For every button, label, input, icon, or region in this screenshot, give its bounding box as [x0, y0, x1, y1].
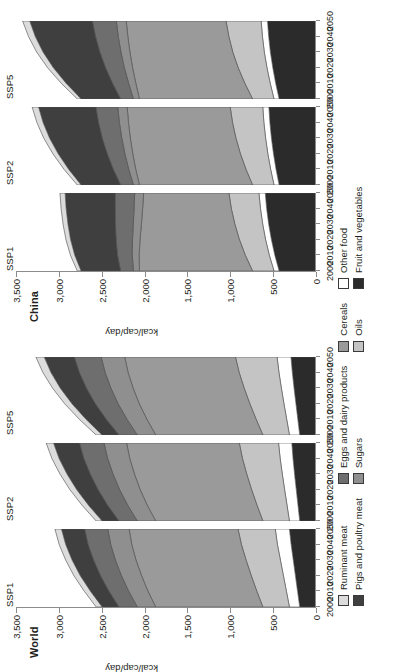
- panel-title-ssp2: SSP2: [4, 497, 15, 521]
- panel-title-ssp1: SSP1: [4, 583, 15, 607]
- x-axis: [315, 443, 316, 521]
- legend-item: Eggs and dairy products: [338, 366, 349, 484]
- chart-panel: SSP2200020102020203020402050: [16, 443, 316, 521]
- x-axis-tick: [316, 106, 320, 107]
- x-axis-tick: [316, 270, 320, 271]
- x-axis-tick: [316, 82, 320, 83]
- x-axis-tick: [316, 137, 320, 138]
- x-axis-tick: [316, 559, 320, 560]
- figure-rotation-wrapper: World 05001,0001,5002,0002,5003,0003,500…: [0, 0, 410, 672]
- y-axis-title-world: kcal/cap/day: [105, 663, 158, 672]
- legend-item-label: Cereals: [338, 303, 349, 336]
- legend-item: Ruminant meat: [338, 498, 349, 606]
- x-axis-tick: [316, 528, 320, 529]
- legend-swatch-icon: [353, 473, 364, 484]
- chart-panel: SSP2200020102020203020402050: [16, 107, 316, 185]
- x-axis: [315, 357, 316, 435]
- x-axis-tick: [316, 458, 320, 459]
- y-axis-tick: [187, 272, 188, 277]
- x-axis-tick: [316, 387, 320, 388]
- y-axis-tick: [273, 608, 274, 613]
- legend-swatch-icon: [338, 595, 349, 606]
- x-axis-tick: [316, 239, 320, 240]
- x-axis-tick-label: 2050: [325, 347, 335, 367]
- legend-column: Other foodFruit and vegetables: [338, 187, 364, 289]
- x-axis-tick: [316, 208, 320, 209]
- x-axis-tick: [316, 575, 320, 576]
- y-axis-tick-label: 3,000: [53, 615, 64, 639]
- x-axis-tick: [316, 489, 320, 490]
- y-axis-tick: [187, 608, 188, 613]
- y-axis-tick-label: 500: [268, 279, 279, 295]
- legend-item-label: Oils: [353, 319, 364, 335]
- figure: World 05001,0001,5002,0002,5003,0003,500…: [0, 0, 410, 672]
- x-axis-tick: [316, 356, 320, 357]
- legend-item-label: Ruminant meat: [338, 526, 349, 590]
- stacked-area-plot: [16, 357, 316, 435]
- y-axis-tick-label: 0: [311, 279, 322, 284]
- legend-item: Fruit and vegetables: [353, 187, 364, 289]
- legend-swatch-icon: [338, 278, 349, 289]
- y-axis-tick-label: 500: [268, 615, 279, 631]
- y-axis-tick-label: 2,000: [139, 615, 150, 639]
- stacked-area-plot: [16, 21, 316, 99]
- y-axis-tick-label: 1,500: [182, 279, 193, 303]
- legend-item: Oils: [353, 303, 364, 352]
- legend-item: Sugars: [353, 366, 364, 484]
- y-axis-tick: [145, 272, 146, 277]
- legend-swatch-icon: [338, 341, 349, 352]
- y-axis-tick: [16, 272, 17, 277]
- y-axis-tick-label: 2,500: [96, 615, 107, 639]
- group-title-world: World: [28, 627, 40, 658]
- x-axis-tick: [316, 442, 320, 443]
- y-axis-tick: [316, 608, 317, 613]
- legend-column: Ruminant meatPigs and poultry meat: [338, 498, 364, 606]
- panels-china: SSP1200020102020203020402050SSP220002010…: [16, 13, 316, 271]
- legend-item-label: Fruit and vegetables: [353, 187, 364, 273]
- y-axis-tick-label: 0: [311, 615, 322, 620]
- legend-swatch-icon: [353, 595, 364, 606]
- legend-item: Other food: [338, 187, 349, 289]
- x-axis-tick: [316, 418, 320, 419]
- y-axis-tick-label: 2,000: [139, 279, 150, 303]
- group-title-china: China: [28, 291, 40, 322]
- legend-column: CerealsOils: [338, 303, 364, 352]
- x-axis-tick: [316, 51, 320, 52]
- stacked-area-plot: [16, 107, 316, 185]
- legend-item: Cereals: [338, 303, 349, 352]
- x-axis-tick: [316, 168, 320, 169]
- panel-title-ssp2: SSP2: [4, 161, 15, 185]
- x-axis-tick: [316, 192, 320, 193]
- stacked-area-plot: [16, 529, 316, 607]
- x-axis-tick: [316, 372, 320, 373]
- x-axis-tick-label: 2050: [325, 11, 335, 31]
- x-axis: [315, 529, 316, 607]
- x-axis-tick: [316, 254, 320, 255]
- legend-swatch-icon: [353, 278, 364, 289]
- chart-panel: SSP1200020102020203020402050: [16, 529, 316, 607]
- x-axis-tick: [316, 520, 320, 521]
- x-axis-tick: [316, 36, 320, 37]
- x-axis-tick: [316, 98, 320, 99]
- chart-panel: SSP5200020102020203020402050: [16, 21, 316, 99]
- x-axis-tick: [316, 590, 320, 591]
- legend: Ruminant meatPigs and poultry meatEggs a…: [338, 4, 364, 606]
- panels-world: SSP1200020102020203020402050SSP220002010…: [16, 349, 316, 607]
- y-axis-title-china: kcal/cap/day: [105, 327, 158, 338]
- y-axis-tick: [102, 272, 103, 277]
- y-axis-tick: [16, 608, 17, 613]
- x-axis: [315, 21, 316, 99]
- legend-item-label: Pigs and poultry meat: [353, 498, 364, 590]
- x-axis-tick: [316, 473, 320, 474]
- y-axis-tick: [230, 608, 231, 613]
- legend-swatch-icon: [353, 341, 364, 352]
- y-axis-tick: [273, 272, 274, 277]
- x-axis-tick: [316, 153, 320, 154]
- legend-item-label: Eggs and dairy products: [338, 366, 349, 468]
- legend-item-label: Sugars: [353, 438, 364, 468]
- x-axis-tick: [316, 184, 320, 185]
- y-axis-tick-label: 3,500: [11, 615, 22, 639]
- y-axis-tick: [59, 608, 60, 613]
- chart-panel: SSP5200020102020203020402050: [16, 357, 316, 435]
- stacked-area-plot: [16, 443, 316, 521]
